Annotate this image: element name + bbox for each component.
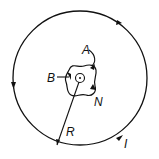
arrow-bottom-right-icon <box>116 135 123 141</box>
label-a: A <box>81 43 90 57</box>
label-b: B <box>47 71 55 85</box>
loop-a-left-arrow-icon <box>67 72 71 80</box>
loop-a <box>65 65 96 96</box>
diagram-canvas: A B N R I <box>0 0 159 159</box>
label-n: N <box>94 95 103 109</box>
label-i: I <box>124 137 128 151</box>
label-r: R <box>66 125 75 139</box>
wire-b-center <box>79 77 81 79</box>
arrow-left-icon <box>11 82 16 89</box>
